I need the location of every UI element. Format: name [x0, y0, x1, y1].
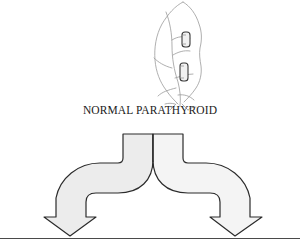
- branching-arrows: [0, 0, 300, 247]
- horizontal-rule: [0, 238, 300, 239]
- right-arrow-icon: [153, 134, 262, 236]
- left-arrow-icon: [44, 134, 153, 236]
